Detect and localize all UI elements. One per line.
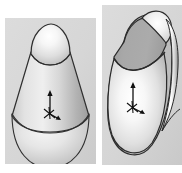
panel-upright-view xyxy=(5,18,96,164)
tilted-view-rendering xyxy=(102,5,182,165)
upright-view-rendering xyxy=(5,18,96,164)
panel-tilted-view xyxy=(102,5,182,165)
figure-container: Upright view Tilted view Two shaded 3D v… xyxy=(0,0,182,173)
